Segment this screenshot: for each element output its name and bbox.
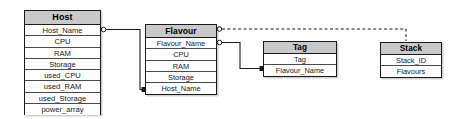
er-diagram-canvas: Host Host_Name CPU RAM Storage used_CPU … xyxy=(0,0,473,119)
attribute-row[interactable]: used_CPU xyxy=(25,70,100,81)
entity-flavour[interactable]: Flavour Flavour_Name CPU RAM Storage Hos… xyxy=(145,24,217,95)
entity-flavour-attribute-list: Flavour_Name CPU RAM Storage Host_Name xyxy=(146,38,216,94)
attribute-row[interactable]: power_array xyxy=(25,104,100,115)
crowsfoot-open-circle-icon xyxy=(217,27,222,32)
entity-tag-title: Tag xyxy=(264,42,336,54)
attribute-row[interactable]: Flavour_Name xyxy=(146,38,216,49)
attribute-row[interactable]: Flavours xyxy=(381,66,441,77)
connector-host-to-flavour xyxy=(101,27,147,92)
entity-host-attribute-list: Host_Name CPU RAM Storage used_CPU used_… xyxy=(25,25,100,115)
attribute-row[interactable]: Flavour_Name xyxy=(264,65,336,76)
entity-stack[interactable]: Stack Stack_ID Flavours xyxy=(380,42,442,78)
connector-flavour-to-tag xyxy=(217,40,264,71)
attribute-row[interactable]: Tag xyxy=(264,54,336,65)
attribute-row[interactable]: used_RAM xyxy=(25,81,100,92)
entity-host-title: Host xyxy=(25,11,100,25)
attribute-row[interactable]: Storage xyxy=(25,59,100,70)
entity-tag-attribute-list: Tag Flavour_Name xyxy=(264,54,336,76)
attribute-row[interactable]: CPU xyxy=(25,36,100,47)
attribute-row[interactable]: RAM xyxy=(146,61,216,72)
crowsfoot-open-circle-icon xyxy=(101,27,106,32)
entity-stack-title: Stack xyxy=(381,43,441,55)
attribute-row[interactable]: Stack_ID xyxy=(381,55,441,66)
entity-flavour-title: Flavour xyxy=(146,25,216,38)
entity-tag[interactable]: Tag Tag Flavour_Name xyxy=(263,41,337,77)
entity-host[interactable]: Host Host_Name CPU RAM Storage used_CPU … xyxy=(24,10,101,115)
connector-flavour-to-stack xyxy=(217,27,406,41)
entity-stack-attribute-list: Stack_ID Flavours xyxy=(381,55,441,77)
crowsfoot-open-circle-icon xyxy=(217,40,222,45)
attribute-row[interactable]: Host_Name xyxy=(25,25,100,36)
attribute-row[interactable]: RAM xyxy=(25,48,100,59)
attribute-row[interactable]: Host_Name xyxy=(146,83,216,94)
attribute-row[interactable]: CPU xyxy=(146,49,216,60)
attribute-row[interactable]: Storage xyxy=(146,72,216,83)
attribute-row[interactable]: used_Storage xyxy=(25,93,100,104)
